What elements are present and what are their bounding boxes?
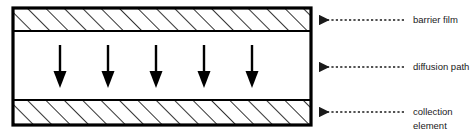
callout-barrier-film: barrier film — [320, 14, 458, 25]
barrier-film-layer — [13, 8, 311, 31]
callout-label-diffusion-path: diffusion path — [413, 61, 469, 72]
cell-body — [13, 8, 311, 125]
diagram-canvas: barrier film diffusion path collection e… — [0, 0, 472, 138]
collection-element-layer — [13, 100, 311, 125]
callout-label-barrier-film: barrier film — [413, 14, 458, 25]
diffusion-cell-diagram: barrier film diffusion path collection e… — [0, 0, 472, 138]
callout-label-collection-element-line1: collection — [413, 106, 453, 117]
callout-diffusion-path: diffusion path — [320, 61, 469, 72]
callout-label-collection-element-line2: element — [413, 120, 447, 131]
callout-collection-element: collection element — [320, 106, 453, 131]
